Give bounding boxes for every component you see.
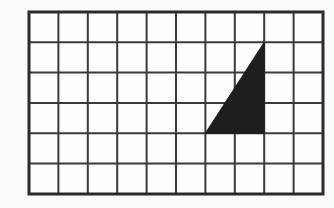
grid-cell [58,73,87,103]
grid-cell [264,73,293,103]
grid-cell [264,133,293,163]
grid-cell [117,42,146,72]
grid-cell [58,164,87,194]
grid-cell [205,42,234,72]
grid-cell [147,103,176,133]
figure-root [0,0,334,208]
grid-cell [58,103,87,133]
grid-cell [58,133,87,163]
grid-cell [294,164,323,194]
grid-cell [88,42,117,72]
grid-cell [176,133,205,163]
grid-cell [264,164,293,194]
grid-cell [294,133,323,163]
grid-cell [29,103,58,133]
grid-cell [29,133,58,163]
grid-cell [29,164,58,194]
grid-cell [176,12,205,42]
grid-cell [88,164,117,194]
grid-cell [117,12,146,42]
grid-cell [58,12,87,42]
grid-cell [29,12,58,42]
grid-cell [294,42,323,72]
grid-cell [235,12,264,42]
grid-cell [294,103,323,133]
grid-cell [147,164,176,194]
grid-cell [205,12,234,42]
grid-cell [294,12,323,42]
grid-cell [235,133,264,163]
grid-cell [117,164,146,194]
grid-cell [205,164,234,194]
grid-cell [117,103,146,133]
grid-cell [294,73,323,103]
grid-cell [88,103,117,133]
grid-cell [264,103,293,133]
grid-cell [147,73,176,103]
grid-cell [117,73,146,103]
grid-cell [235,164,264,194]
grid-cell [264,12,293,42]
grid-with-triangle-figure [0,0,334,208]
grid-cell [176,42,205,72]
grid-cell [147,12,176,42]
grid-cell [29,73,58,103]
grid-cell [88,133,117,163]
grid-cell [176,73,205,103]
grid-cell [29,42,58,72]
grid-cell [205,133,234,163]
grid-cell [88,12,117,42]
grid-cell [264,42,293,72]
grid-cell [176,103,205,133]
grid-cell [58,42,87,72]
grid-cell [147,42,176,72]
grid-cell [117,133,146,163]
grid-cell [176,164,205,194]
grid-cell [147,133,176,163]
grid-cell [88,73,117,103]
